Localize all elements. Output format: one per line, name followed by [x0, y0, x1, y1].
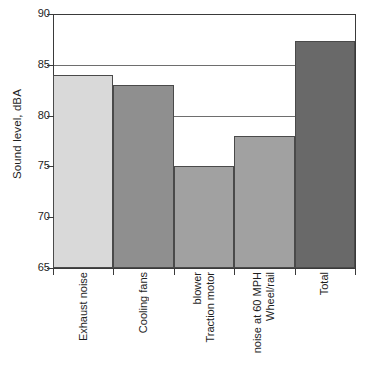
x-axis-tick-mark [234, 269, 235, 275]
x-axis-category-label-line: blower [191, 272, 204, 304]
x-axis-category-label-line: Cooling fans [137, 272, 150, 333]
x-axis-category-labels: Exhaust noiseCooling fansTraction motorb… [53, 272, 355, 368]
x-axis-category-label-line: noise at 60 MPH [251, 272, 264, 353]
y-axis-tick-mark [47, 166, 54, 167]
bar [234, 136, 294, 268]
x-axis-category-label-line: Total [318, 272, 331, 295]
y-axis-title-text: Sound level, dBA [11, 89, 23, 179]
y-axis-tick-mark [47, 14, 54, 15]
bar [53, 75, 113, 268]
bar [113, 85, 173, 268]
plot-frame-right [355, 14, 356, 269]
x-axis-tick-mark [295, 269, 296, 275]
y-axis-tick-mark [47, 65, 54, 66]
x-axis-category-label: Total [295, 272, 355, 368]
x-axis-tick-mark [355, 269, 356, 275]
x-axis-category-label-line: Traction motor [204, 272, 217, 343]
x-axis-tick-mark [113, 269, 114, 275]
x-axis-category-label: Exhaust noise [53, 272, 113, 368]
x-axis-category-label: Wheel/railnoise at 60 MPH [234, 272, 294, 368]
x-axis-tick-mark [174, 269, 175, 275]
x-axis-category-label: Traction motorblower [174, 272, 234, 368]
plot-area [53, 14, 355, 268]
y-axis-tick-mark [47, 116, 54, 117]
x-axis-tick-mark [53, 269, 54, 275]
y-axis-tick-labels: 908580757065 [24, 0, 50, 368]
x-axis-category-label-line: Exhaust noise [77, 272, 90, 341]
bar [295, 41, 355, 268]
bar-chart: Sound level, dBA 908580757065 Exhaust no… [0, 0, 365, 368]
x-axis-category-label-line: Wheel/rail [264, 272, 277, 321]
y-axis-tick-mark [47, 217, 54, 218]
plot-frame-bottom-axis [53, 268, 356, 269]
bar [174, 166, 234, 268]
x-axis-category-label: Cooling fans [113, 272, 173, 368]
